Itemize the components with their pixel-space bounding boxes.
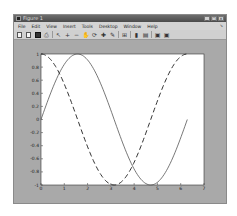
plot-canvas: 01234567-1-0.8-0.6-0.4-0.200.20.40.60.81 <box>0 0 237 216</box>
svg-text:-1: -1 <box>35 183 40 188</box>
svg-text:6: 6 <box>179 186 182 191</box>
svg-text:0.6: 0.6 <box>32 78 39 83</box>
svg-text:5: 5 <box>156 186 159 191</box>
svg-text:0.8: 0.8 <box>32 65 39 70</box>
svg-text:0.4: 0.4 <box>32 91 39 96</box>
svg-text:3: 3 <box>109 186 112 191</box>
svg-text:1: 1 <box>36 52 39 57</box>
svg-text:0: 0 <box>36 117 39 122</box>
svg-text:-0.2: -0.2 <box>30 130 39 135</box>
svg-text:0.2: 0.2 <box>32 104 39 109</box>
svg-text:-0.8: -0.8 <box>30 169 39 174</box>
svg-text:-0.6: -0.6 <box>30 156 39 161</box>
svg-text:-0.4: -0.4 <box>30 143 39 148</box>
svg-text:4: 4 <box>133 186 136 191</box>
svg-text:0: 0 <box>40 186 43 191</box>
svg-text:1: 1 <box>63 186 66 191</box>
svg-text:2: 2 <box>86 186 89 191</box>
svg-text:7: 7 <box>203 186 206 191</box>
axes-area[interactable] <box>41 54 204 185</box>
